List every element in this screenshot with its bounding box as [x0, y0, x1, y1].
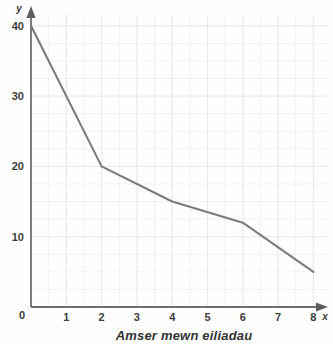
x-tick-label: 7 [275, 311, 281, 323]
y-tick-label: 20 [12, 160, 24, 172]
x-axis-title: Amser mewn eiliadau [115, 328, 253, 343]
x-tick-label: 6 [240, 311, 246, 323]
x-tick-label: 3 [134, 311, 140, 323]
x-tick-label: 1 [63, 311, 69, 323]
x-tick-label: 5 [204, 311, 210, 323]
y-tick-label: 30 [12, 90, 24, 102]
x-axis-symbol-label: x [321, 311, 328, 322]
y-tick-label: 10 [12, 231, 24, 243]
y-axis-symbol-label: y [15, 3, 22, 14]
chart-background [0, 0, 333, 344]
x-tick-label: 4 [169, 311, 176, 323]
x-tick-label: 2 [99, 311, 105, 323]
y-tick-label: 40 [12, 20, 24, 32]
origin-label: 0 [19, 309, 25, 321]
chart-canvas: 12345678 10203040 0 x y Amser mewn eilia… [0, 0, 333, 344]
line-chart: 12345678 10203040 0 x y Amser mewn eilia… [0, 0, 333, 344]
x-tick-label: 8 [310, 311, 316, 323]
